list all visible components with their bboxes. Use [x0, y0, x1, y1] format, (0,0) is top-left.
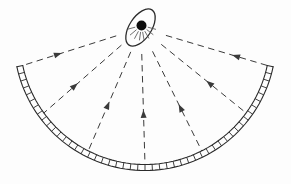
- mirror-segment-tick: [68, 141, 72, 146]
- mirror-segment-tick: [206, 149, 209, 154]
- glow-ray: [139, 32, 140, 40]
- mirror-segment-tick: [101, 157, 103, 163]
- glow-ray: [134, 31, 138, 39]
- mirror-segment-tick: [187, 157, 189, 163]
- mirror-segment-tick: [229, 132, 233, 136]
- mirror-segment-tick: [81, 149, 84, 154]
- reflected-ray: [88, 52, 130, 151]
- mirror-segment-tick: [264, 79, 270, 81]
- mirror-end-cap: [17, 65, 23, 66]
- mirror-segment-tick: [94, 155, 96, 161]
- mirror-segment-tick: [244, 116, 249, 120]
- mirror-segment-tick: [200, 152, 203, 157]
- mirror-segment-tick: [193, 155, 195, 161]
- mirror-focus-diagram: [0, 0, 291, 184]
- mirror-segment-tick: [37, 111, 42, 114]
- reflected-ray: [142, 54, 145, 165]
- mirror-segment-tick: [108, 160, 110, 166]
- mirror-segment-tick: [57, 132, 61, 136]
- mirror-segment-tick: [21, 79, 27, 81]
- ray-arrowhead: [53, 53, 62, 59]
- ray-arrowhead: [206, 81, 214, 88]
- mirror-segment-tick: [252, 105, 257, 108]
- glow-ray: [143, 32, 144, 40]
- ray-arrowhead: [232, 54, 241, 60]
- mirror-segment-tick: [52, 127, 56, 131]
- reflected-ray: [161, 44, 246, 113]
- focal-dot: [137, 21, 147, 31]
- mirror-segment-tick: [75, 145, 78, 150]
- mirror-segment-tick: [212, 145, 215, 150]
- ray-arrowhead: [141, 110, 147, 118]
- ray-arrowhead: [104, 102, 110, 111]
- mirror-segment-tick: [255, 99, 260, 102]
- mirror-segment-tick: [42, 116, 47, 120]
- mirror-segment-tick: [239, 122, 244, 126]
- mirror-segment-tick: [261, 86, 267, 88]
- focal-source-group: [120, 4, 161, 51]
- mirror-segment-tick: [166, 163, 167, 169]
- reflected-ray: [153, 51, 202, 151]
- mirror-segment-tick: [88, 152, 91, 157]
- mirror-segment-tick: [47, 122, 52, 126]
- glow-ray: [130, 30, 137, 35]
- mirror-end-cap: [267, 65, 273, 66]
- converging-rays-group: [23, 35, 268, 164]
- mirror-segment-tick: [258, 92, 263, 95]
- mirror-segment-tick: [224, 137, 228, 142]
- mirror-segment-tick: [173, 161, 174, 167]
- diagram-canvas: [0, 0, 291, 184]
- mirror-segment-tick: [33, 105, 38, 108]
- mirror-segment-tick: [123, 163, 124, 169]
- mirror-segment-tick: [180, 160, 182, 166]
- mirror-segment-tick: [218, 141, 222, 146]
- ray-arrowhead: [179, 104, 185, 113]
- mirror-segment-tick: [63, 137, 67, 142]
- mirror-segment-tick: [130, 164, 131, 170]
- reflected-ray: [23, 36, 116, 66]
- mirror-segment-tick: [19, 72, 25, 74]
- mirror-segment-tick: [266, 72, 272, 74]
- mirror-segment-tick: [116, 161, 117, 167]
- mirror-segment-tick: [30, 99, 35, 102]
- mirror-segment-tick: [26, 92, 31, 95]
- mirror-segment-tick: [159, 164, 160, 170]
- mirror-segment-tick: [234, 127, 238, 131]
- mirror-segment-tick: [248, 111, 253, 114]
- mirror-segment-tick: [23, 86, 29, 88]
